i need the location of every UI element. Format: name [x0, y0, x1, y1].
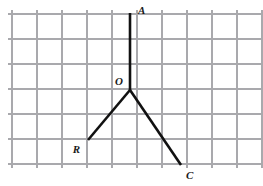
ray-OR	[88, 90, 130, 140]
label-A: A	[137, 4, 145, 16]
grid	[8, 10, 263, 168]
label-R: R	[72, 143, 80, 155]
figure-canvas: AORC	[0, 0, 263, 186]
geometry-figure: AORC	[0, 0, 263, 186]
label-O: O	[115, 75, 123, 87]
ray-OC	[130, 90, 181, 165]
label-C: C	[186, 169, 194, 181]
